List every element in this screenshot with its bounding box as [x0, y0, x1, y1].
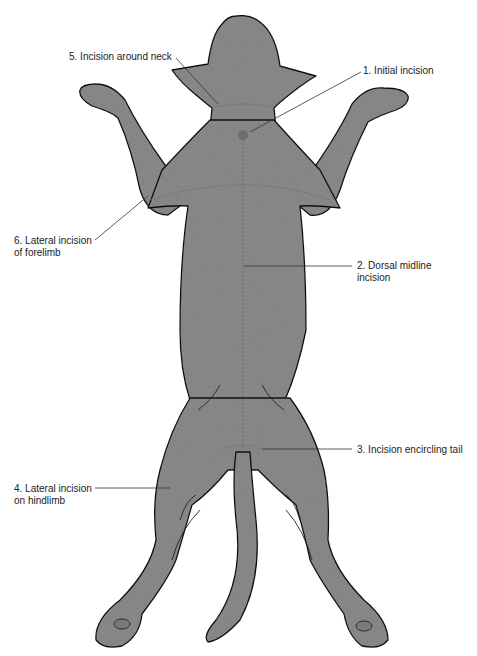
cat-body	[80, 16, 409, 648]
initial-incision-dot	[238, 130, 248, 140]
label-incision-encircling-tail: 3. Incision encircling tail	[357, 444, 463, 456]
label-dorsal-midline-incision: 2. Dorsal midline incision	[357, 260, 431, 284]
label-lateral-incision-hindlimb: 4. Lateral incision on hindlimb	[14, 483, 92, 507]
cat-dorsal-illustration	[0, 0, 477, 656]
label-incision-around-neck: 5. Incision around neck	[69, 51, 172, 63]
label-lateral-incision-forelimb: 6. Lateral incision of forelimb	[14, 235, 92, 259]
label-initial-incision: 1. Initial incision	[363, 65, 434, 77]
